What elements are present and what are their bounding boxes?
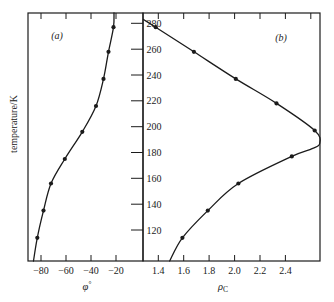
data-point [290,154,294,158]
x-axis-tick-label: 2.4 [279,265,292,276]
data-point [274,101,278,105]
data-point [63,157,67,161]
y-axis-tick-label: 240 [147,70,162,81]
data-point [49,181,53,185]
x-axis-tick-label: 1.4 [152,265,165,276]
data-point [101,77,105,81]
data-point [106,50,110,54]
y-axis-tick-label: 140 [147,199,162,210]
data-point [234,77,238,81]
x-axis-tick-label: 1.6 [177,265,190,276]
data-point [236,181,240,185]
panel-label-a: (a) [51,30,63,42]
data-point [192,50,196,54]
panel-b: 1.41.61.82.02.22.4(b)ρC [143,13,320,294]
y-axis-tick-label: 260 [147,44,162,55]
figure-canvas: −80−60−40−20(a)φ°1.41.61.82.02.22.4(b)ρC… [0,0,334,302]
x-axis-tick-label: −40 [83,265,99,276]
data-point [41,209,45,213]
y-axis-label: temperature/K [8,94,19,153]
panel-frame [28,13,143,261]
data-curve-b [144,20,321,262]
x-axis-tick-label: −20 [108,265,124,276]
y-axis-tick-label: 280 [147,18,162,29]
data-point [80,130,84,134]
data-point [35,236,39,240]
data-curve-a [34,13,115,261]
data-point [94,104,98,108]
x-axis-tick-label: 2.2 [254,265,267,276]
x-axis-tick-label: −80 [33,265,49,276]
data-point [313,128,317,132]
data-point [111,25,115,29]
data-point [180,236,184,240]
y-axis-tick-label: 220 [147,95,162,106]
x-axis-tick-label: 1.8 [203,265,216,276]
y-axis-tick-label: 180 [147,147,162,158]
panel-a: −80−60−40−20(a)φ° [28,13,143,292]
x-axis-tick-label: −60 [58,265,74,276]
y-axis-tick-label: 120 [147,225,162,236]
y-axis-tick-label: 200 [147,121,162,132]
x-axis-label-phi: φ° [83,280,92,292]
panel-frame [143,13,320,261]
y-axis-tick-label: 160 [147,173,162,184]
two-panel-temperature-chart: −80−60−40−20(a)φ°1.41.61.82.02.22.4(b)ρC… [0,0,334,302]
data-point [206,209,210,213]
x-axis-tick-label: 2.0 [228,265,241,276]
x-axis-label-rho: ρC [217,281,228,294]
panel-label-b: (b) [275,32,287,44]
